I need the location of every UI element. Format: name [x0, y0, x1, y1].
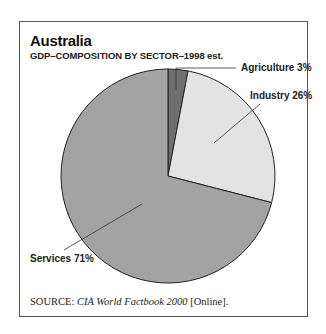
source-suffix: [Online].: [190, 296, 228, 307]
pie-slices: [61, 69, 275, 283]
source-note: SOURCE: CIA World Factbook 2000 [Online]…: [30, 296, 228, 307]
source-title: CIA World Factbook 2000: [77, 296, 188, 307]
label-agriculture: Agriculture 3%: [241, 62, 312, 73]
label-services: Services 71%: [30, 253, 94, 264]
pie-chart: [0, 0, 326, 334]
label-industry: Industry 26%: [250, 90, 312, 101]
source-prefix: SOURCE:: [30, 296, 74, 307]
